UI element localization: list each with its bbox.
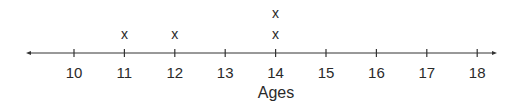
x-axis-label: Ages	[258, 84, 294, 102]
tick-label: 16	[361, 64, 391, 81]
tick-label: 12	[160, 64, 190, 81]
dot-plot: 101112131415161718 xxxx Ages	[0, 0, 516, 107]
x-mark: x	[168, 27, 182, 41]
x-mark: x	[117, 27, 131, 41]
tick-label: 14	[261, 64, 291, 81]
x-mark: x	[269, 6, 283, 20]
tick-label: 13	[210, 64, 240, 81]
x-mark: x	[269, 27, 283, 41]
tick-label: 15	[311, 64, 341, 81]
tick-label: 18	[462, 64, 492, 81]
tick-label: 10	[59, 64, 89, 81]
right-arrow-icon	[492, 51, 497, 55]
tick-label: 11	[109, 64, 139, 81]
left-arrow-icon	[26, 51, 31, 55]
tick-label: 17	[412, 64, 442, 81]
